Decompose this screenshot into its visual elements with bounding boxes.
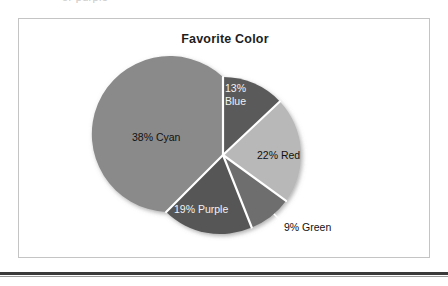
footer-rule [0, 272, 448, 275]
pie-label-blue-value: 13% [225, 82, 246, 95]
pie-chart-svg [19, 19, 431, 259]
pie-label-blue: 13% Blue [225, 82, 246, 108]
pie-label-red: 22% Red [257, 149, 300, 162]
pie-label-cyan: 38% Cyan [132, 131, 180, 144]
pie-label-green: 9% Green [284, 221, 331, 234]
pie-chart: 13% Blue 22% Red 9% Green 19% Purple 38%… [19, 19, 431, 259]
pie-label-blue-name: Blue [225, 95, 246, 108]
clipped-text-remnant: or purple [0, 0, 448, 8]
pie-label-purple: 19% Purple [174, 203, 228, 216]
clipped-text: or purple [62, 0, 108, 3]
footer-rule-secondary [0, 276, 448, 277]
chart-frame: Favorite Color [18, 18, 430, 258]
